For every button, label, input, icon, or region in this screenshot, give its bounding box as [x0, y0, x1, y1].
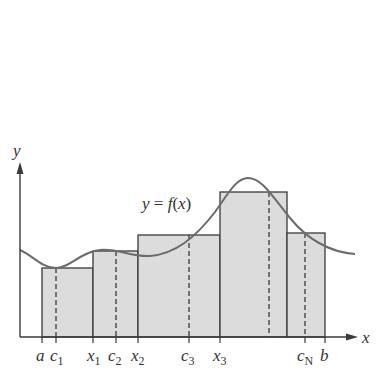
x-axis-arrow-icon [346, 334, 358, 341]
riemann-sum-diagram: y x y = f(x) a c1 x1 c2 x2 c3 x3 cN b [0, 0, 391, 384]
y-axis-arrow-icon [17, 162, 24, 174]
riemann-rectangles [42, 192, 325, 337]
curve-label: y = f(x) [140, 194, 191, 213]
tick-label-c2: c2 [108, 346, 122, 368]
tick-label-cN: cN [297, 346, 314, 368]
tick-label-c1: c1 [50, 346, 64, 368]
tick-label-x1: x1 [86, 346, 101, 368]
rectangle-4 [220, 192, 287, 337]
rectangle-3 [138, 235, 220, 337]
tick-label-x2: x2 [130, 346, 145, 368]
tick-label-a: a [36, 346, 45, 365]
rectangle-1 [42, 268, 93, 337]
x-axis-label: x [361, 328, 370, 347]
y-axis-label: y [11, 141, 21, 160]
tick-label-b: b [320, 346, 329, 365]
tick-label-x3: x3 [212, 346, 227, 368]
tick-labels: a c1 x1 c2 x2 c3 x3 cN b [36, 346, 329, 368]
tick-label-c3: c3 [181, 346, 195, 368]
rectangle-N [287, 233, 325, 337]
tick-marks [42, 337, 325, 343]
